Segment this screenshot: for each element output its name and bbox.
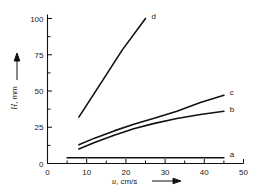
tick-labels-group: 025507510001020304050 [30,15,248,177]
y-tick-label: 100 [30,15,44,24]
y-axis-title: H, mm [10,86,19,111]
x-tick-label: 10 [82,168,91,177]
x-tick-label: 30 [161,168,170,177]
y-axis-title-unit: , mm [10,86,19,104]
series-label-d: d [151,12,155,21]
chart-canvas: 025507510001020304050 abcd H, mmu, cm/s [0,0,261,194]
x-tick-label: 50 [239,168,248,177]
x-tick-label: 20 [121,168,130,177]
series-line-c [79,95,224,144]
x-tick-label: 0 [45,168,50,177]
x-axis-arrow-icon [173,178,181,183]
x-tick-label: 40 [200,168,209,177]
series-labels-group: abcd [151,12,234,159]
axis-titles-group: H, mmu, cm/s [10,53,181,186]
ticks-group [48,19,244,164]
y-axis-arrow-icon [14,53,20,61]
series-label-a: a [230,150,235,159]
axes-group [48,15,244,164]
series-line-b [79,111,224,149]
series-label-c: c [230,88,234,97]
y-tick-label: 25 [35,123,44,132]
series-line-d [79,19,146,118]
y-tick-label: 50 [35,87,44,96]
series-label-b: b [230,105,235,114]
x-axis-title-unit: , cm/s [116,177,137,186]
line-chart: 025507510001020304050 abcd H, mmu, cm/s [0,0,261,194]
series-group [67,19,224,158]
y-tick-label: 0 [39,160,44,169]
y-tick-label: 75 [35,51,44,60]
x-axis-title: u, cm/s [112,177,137,186]
